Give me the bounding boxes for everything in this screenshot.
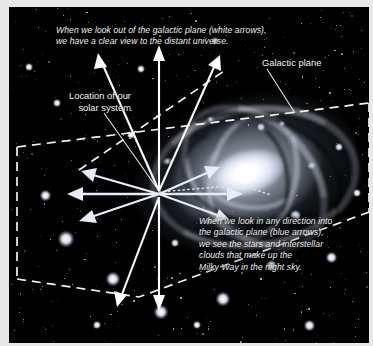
white-arrow-up-left bbox=[94, 53, 159, 191]
caption-out-of-plane: When we look out of the galactic plane (… bbox=[56, 25, 267, 48]
caption-into-plane: When we look in any direction into the g… bbox=[199, 216, 332, 273]
blue-arrow-lower-left bbox=[79, 194, 159, 223]
label-galactic-plane: Galactic plane bbox=[262, 57, 321, 69]
diagram-page: When we look out of the galactic plane (… bbox=[0, 0, 373, 346]
white-arrow-down-left bbox=[114, 197, 159, 307]
label-solar-system: Location of our solar system bbox=[27, 90, 131, 113]
white-arrow-down-center bbox=[153, 197, 165, 311]
blue-arrow-upper-left bbox=[81, 168, 159, 194]
space-scene: When we look out of the galactic plane (… bbox=[9, 7, 369, 343]
white-arrow-up-center bbox=[153, 45, 165, 191]
